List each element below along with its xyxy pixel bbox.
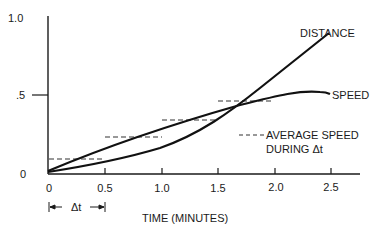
x-tick-label-2-0: 2.0 — [268, 181, 283, 193]
legend-label-line2: DURING Δt — [266, 143, 323, 155]
x-ticks — [105, 168, 331, 174]
y-tick-label-half: .5 — [16, 89, 25, 101]
y-tick-label-zero: 0 — [20, 168, 26, 180]
x-tick-label-1-0: 1.0 — [154, 182, 169, 194]
x-tick-label-0: 0 — [46, 182, 52, 194]
delta-t-label: Δt — [71, 201, 81, 213]
x-tick-label-1-5: 1.5 — [210, 182, 225, 194]
y-tick-label-one: 1.0 — [8, 12, 23, 24]
x-axis-title: TIME (MINUTES) — [142, 212, 228, 224]
legend-label-line1: AVERAGE SPEED — [266, 129, 359, 141]
x-tick-label-2-5: 2.5 — [323, 181, 338, 193]
distance-label: DISTANCE — [300, 27, 355, 39]
x-tick-label-0-5: 0.5 — [97, 182, 112, 194]
speed-label: SPEED — [332, 89, 369, 101]
